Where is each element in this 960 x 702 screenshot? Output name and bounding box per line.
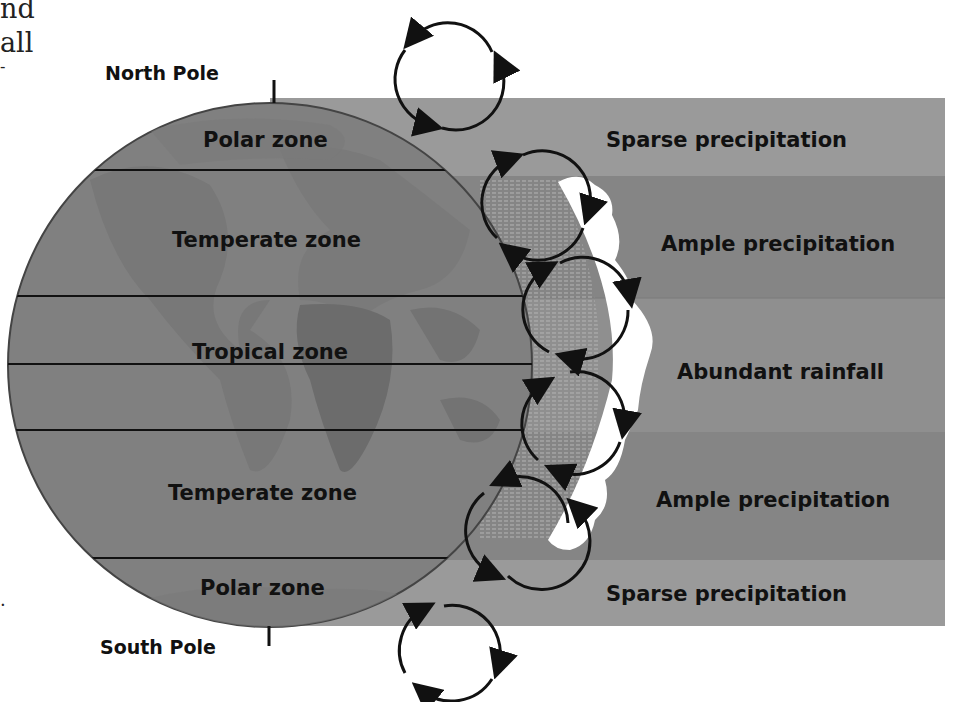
zone-label-polar-south: Polar zone — [200, 576, 325, 600]
zone-label-temperate-south: Temperate zone — [168, 481, 357, 505]
zone-label-tropical: Tropical zone — [192, 340, 348, 364]
north-pole-label: North Pole — [105, 62, 219, 84]
circulation-arrow-icon — [421, 679, 492, 701]
zone-label-temperate-north: Temperate zone — [172, 228, 361, 252]
south-pole-label: South Pole — [100, 636, 216, 658]
precip-label-sparse-north: Sparse precipitation — [606, 128, 847, 152]
precip-label-abundant: Abundant rainfall — [677, 360, 884, 384]
precip-label-ample-south: Ample precipitation — [656, 488, 890, 512]
zone-label-polar-north: Polar zone — [203, 128, 328, 152]
precip-label-ample-north: Ample precipitation — [661, 232, 895, 256]
precip-label-sparse-south: Sparse precipitation — [606, 582, 847, 606]
circulation-arrow-icon — [411, 23, 492, 52]
